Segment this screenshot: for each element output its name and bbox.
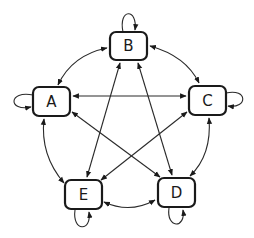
node-d: D [158, 178, 195, 207]
state-graph: B A C D E [0, 0, 254, 238]
edge-b-d [138, 63, 172, 175]
node-b-label: B [123, 37, 133, 55]
node-a-label: A [46, 93, 57, 111]
edge-e-a [43, 119, 64, 183]
edge-d-e [104, 200, 155, 208]
node-b: B [110, 32, 147, 60]
edge-a-d [72, 112, 160, 177]
node-c: C [189, 86, 226, 115]
self-loop-a [14, 94, 33, 107]
edge-b-c [150, 46, 199, 83]
node-a: A [33, 87, 70, 116]
self-loop-c [226, 92, 243, 106]
node-e: E [65, 180, 102, 209]
node-c-label: C [202, 92, 212, 110]
edge-c-d [190, 118, 209, 176]
edge-a-b [58, 48, 107, 85]
node-d-label: D [171, 184, 183, 202]
node-e-label: E [79, 186, 88, 204]
edge-c-e [101, 112, 187, 180]
self-loop-b [122, 14, 135, 32]
edge-b-e [87, 63, 120, 177]
self-loop-d [169, 208, 184, 224]
self-loop-e [75, 210, 90, 227]
